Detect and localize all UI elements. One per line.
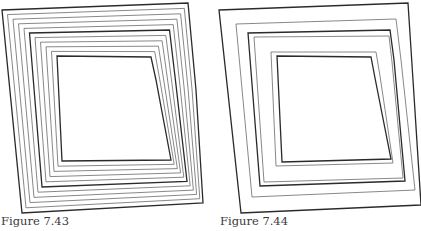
contour-ring bbox=[277, 56, 391, 162]
contour-ring bbox=[52, 51, 175, 166]
figure-caption: Figure 7.44 bbox=[220, 214, 288, 228]
figure-caption: Figure 7.43 bbox=[1, 214, 69, 228]
contour-diagram-left bbox=[0, 0, 210, 231]
contour-ring bbox=[271, 52, 393, 166]
figure-7-44: Figure 7.44 bbox=[210, 0, 421, 231]
figure-7-43: Figure 7.43 bbox=[0, 0, 210, 231]
contour-diagram-right bbox=[210, 0, 421, 231]
contour-ring bbox=[57, 56, 171, 161]
contour-ring bbox=[46, 46, 177, 171]
